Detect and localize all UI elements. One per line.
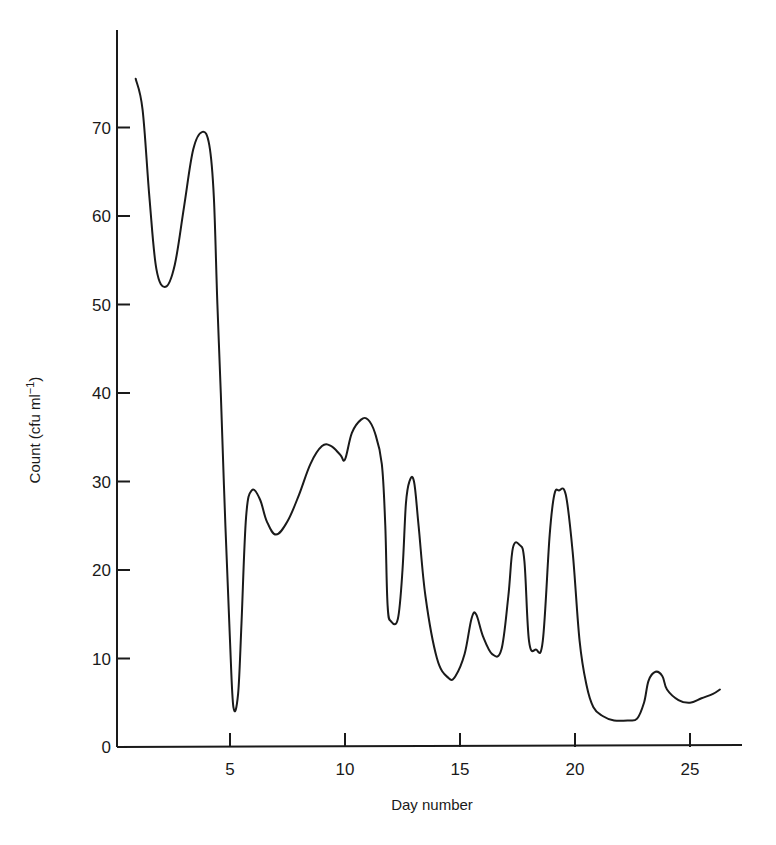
x-tick-label: 25	[681, 760, 700, 779]
y-tick-label: 50	[92, 296, 111, 315]
x-tick-label: 20	[566, 760, 585, 779]
count-series-line	[136, 79, 720, 721]
x-axis-label: Day number	[391, 796, 473, 813]
y-tick-label: 20	[92, 561, 111, 580]
y-tick-label: 10	[92, 650, 111, 669]
y-axis: 010203040506070	[92, 30, 130, 757]
y-tick-label: 40	[92, 384, 111, 403]
x-axis-line	[117, 745, 742, 747]
y-axis-label: Count (cfu ml−1)	[24, 377, 43, 484]
x-axis: 510152025	[117, 733, 742, 779]
y-tick-label: 0	[102, 738, 111, 757]
line-chart: 010203040506070 510152025 Day number Cou…	[0, 0, 776, 845]
y-tick-label: 30	[92, 473, 111, 492]
x-tick-label: 10	[336, 760, 355, 779]
y-tick-label: 70	[92, 119, 111, 138]
x-tick-label: 5	[225, 760, 234, 779]
y-tick-label: 60	[92, 207, 111, 226]
x-tick-label: 15	[451, 760, 470, 779]
